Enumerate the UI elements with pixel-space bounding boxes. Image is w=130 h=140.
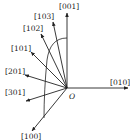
- direction-label-010: [010]: [110, 78, 130, 87]
- direction-arrow-301: [26, 88, 67, 101]
- angle-arc: [44, 38, 67, 118]
- origin-label: O: [69, 92, 75, 101]
- crystal-direction-diagram: [001][103][102][101][201][301][100][010]…: [0, 0, 130, 140]
- direction-label-102: [102]: [23, 24, 43, 33]
- direction-label-001: [001]: [59, 2, 79, 11]
- direction-label-201: [201]: [5, 67, 25, 76]
- direction-arrow-102: [41, 34, 67, 88]
- direction-label-101: [101]: [11, 44, 31, 53]
- direction-label-103: [103]: [34, 12, 54, 21]
- direction-label-301: [301]: [5, 88, 25, 97]
- direction-arrow-103: [53, 22, 67, 88]
- direction-labels: [001][103][102][101][201][301][100][010]: [5, 2, 130, 140]
- direction-arrow-100: [32, 88, 67, 131]
- direction-label-100: [100]: [21, 132, 41, 140]
